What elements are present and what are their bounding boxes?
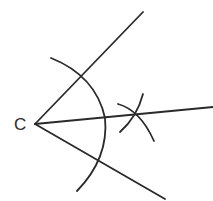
compass-arc-small-2	[120, 94, 143, 132]
compass-arc-small-1	[118, 104, 154, 141]
vertex-label: C	[14, 115, 26, 134]
bisector-ray	[35, 107, 213, 124]
lower-ray	[35, 124, 165, 199]
angle-bisector-diagram: C	[0, 0, 213, 201]
diagram-svg: C	[0, 0, 213, 201]
